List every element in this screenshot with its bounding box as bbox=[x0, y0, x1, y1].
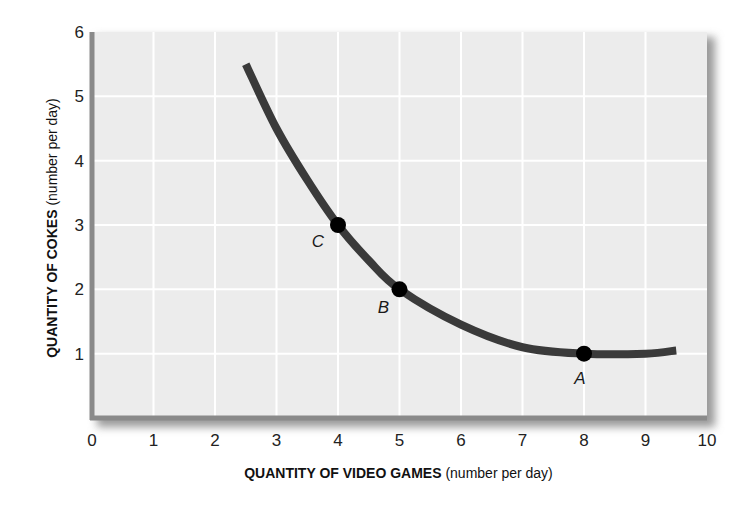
y-axis-title-unit: (number per day) bbox=[44, 98, 60, 205]
x-axis-title-unit: (number per day) bbox=[445, 465, 552, 481]
y-tick-label: 6 bbox=[75, 23, 84, 42]
x-tick-label: 9 bbox=[641, 431, 650, 450]
point-b bbox=[392, 281, 408, 297]
x-axis-title: QUANTITY OF VIDEO GAMES (number per day) bbox=[0, 465, 752, 481]
x-tick-label: 0 bbox=[87, 431, 96, 450]
x-tick-label: 10 bbox=[698, 431, 717, 450]
point-a bbox=[576, 346, 592, 362]
y-tick-label: 4 bbox=[75, 152, 84, 171]
x-tick-label: 1 bbox=[149, 431, 158, 450]
point-label-b: B bbox=[378, 298, 389, 317]
point-label-a: A bbox=[573, 369, 585, 388]
y-axis-ticks: 123456 bbox=[75, 23, 84, 364]
y-tick-label: 5 bbox=[75, 87, 84, 106]
y-tick-label: 1 bbox=[75, 345, 84, 364]
y-axis-title: QUANTITY OF COKES (number per day) bbox=[44, 98, 60, 358]
point-c bbox=[330, 217, 346, 233]
x-tick-label: 7 bbox=[518, 431, 527, 450]
indifference-curve-chart: 012345678910 123456 ABC bbox=[0, 0, 752, 512]
y-tick-label: 3 bbox=[75, 216, 84, 235]
x-tick-label: 4 bbox=[333, 431, 342, 450]
x-tick-label: 5 bbox=[395, 431, 404, 450]
x-tick-label: 2 bbox=[210, 431, 219, 450]
y-tick-label: 2 bbox=[75, 280, 84, 299]
x-tick-label: 8 bbox=[579, 431, 588, 450]
x-axis-ticks: 012345678910 bbox=[87, 431, 716, 450]
y-axis-title-main: QUANTITY OF COKES bbox=[44, 209, 60, 357]
point-label-c: C bbox=[312, 232, 325, 251]
x-tick-label: 6 bbox=[456, 431, 465, 450]
x-tick-label: 3 bbox=[272, 431, 281, 450]
x-axis-title-main: QUANTITY OF VIDEO GAMES bbox=[244, 465, 441, 481]
